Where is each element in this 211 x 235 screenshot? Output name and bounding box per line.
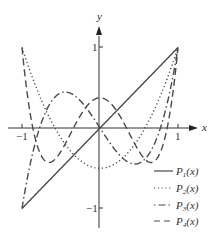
x-axis-label: x [201, 121, 207, 133]
svg-text:P1(x): P1(x) [175, 165, 199, 179]
y-tick-neg-one: −1 [86, 202, 98, 214]
x-tick-one: 1 [175, 130, 181, 142]
legend-item-p4: P4(x) [154, 215, 199, 229]
legend-item-p1: P1(x) [154, 165, 199, 179]
series-p2-line [22, 48, 178, 169]
legendre-chart: −1 1 x 1 −1 y P1(x) P2(x) P3(x) P [0, 0, 211, 235]
svg-text:P4(x): P4(x) [175, 215, 199, 229]
y-axis-label: y [96, 10, 102, 22]
svg-text:P2(x): P2(x) [175, 182, 199, 196]
y-tick-one: 1 [92, 41, 98, 53]
x-tick-neg-one: −1 [16, 130, 28, 142]
legend-item-p2: P2(x) [154, 182, 199, 196]
series-p4-line [22, 48, 178, 163]
y-axis-arrow-icon [96, 26, 102, 35]
svg-text:P3(x): P3(x) [175, 199, 199, 213]
legend: P1(x) P2(x) P3(x) P4(x) [154, 165, 199, 229]
legend-item-p3: P3(x) [154, 199, 199, 213]
x-axis-arrow-icon [189, 125, 198, 131]
